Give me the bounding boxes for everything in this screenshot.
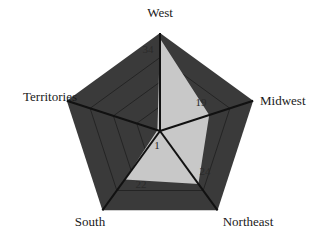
axis-label-northeast: Northeast xyxy=(223,214,274,229)
axis-label-midwest: Midwest xyxy=(260,93,306,108)
radar-chart: West Midwest Northeast South Territories… xyxy=(0,0,317,240)
value-label-south: 22 xyxy=(136,178,147,190)
axis-label-territories: Territories xyxy=(23,89,77,104)
value-label-west: 34 xyxy=(143,43,155,55)
value-label-midwest: 19 xyxy=(196,96,208,108)
axis-label-west: West xyxy=(147,5,173,20)
value-label-northeast: 24 xyxy=(200,165,212,177)
value-label-territories: 1 xyxy=(154,139,160,151)
axis-label-south: South xyxy=(75,214,106,229)
